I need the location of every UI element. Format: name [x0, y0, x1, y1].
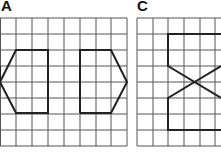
grid-a: [0, 18, 127, 146]
grid-diagram: [0, 0, 221, 154]
grid-c: [137, 18, 221, 146]
